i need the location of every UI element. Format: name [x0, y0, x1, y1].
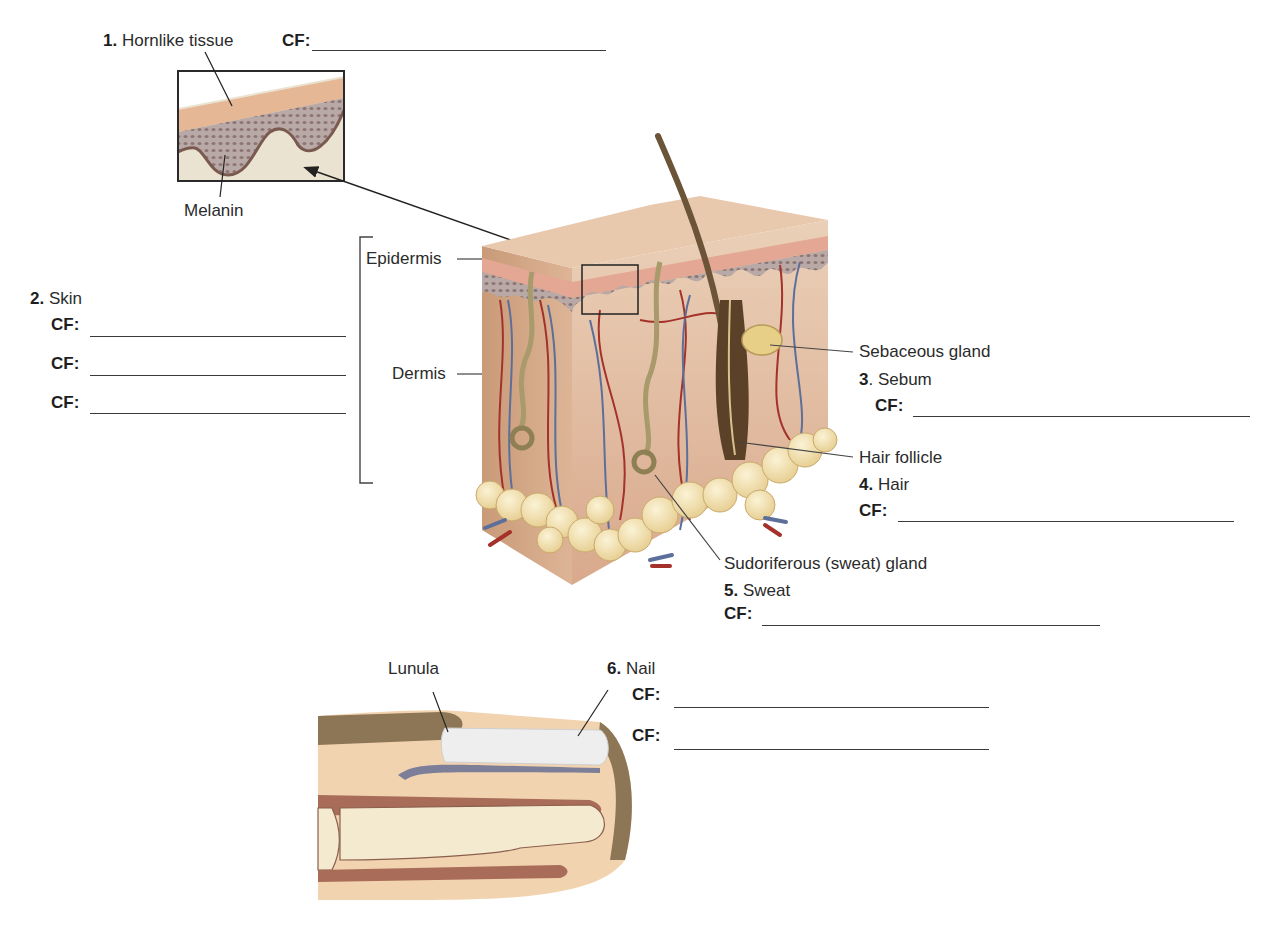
item-3-label: 3. Sebum	[859, 370, 932, 390]
item-2-cf-label-3: CF:	[51, 393, 79, 413]
item-5-label: 5. Sweat	[724, 581, 790, 601]
skin-block-illustration	[476, 136, 837, 585]
item-2-term: Skin	[49, 289, 82, 308]
item-5-cf-blank-1[interactable]	[762, 625, 1100, 626]
item-6-cf-blank-1[interactable]	[674, 707, 989, 708]
hair-follicle-label: Hair follicle	[859, 448, 942, 468]
item-6-cf-label-2: CF:	[632, 726, 660, 746]
melanin-label: Melanin	[184, 201, 244, 221]
item-2-cf-blank-1[interactable]	[90, 336, 346, 337]
item-3-cf-blank-1[interactable]	[913, 416, 1250, 417]
item-2-number: 2.	[30, 289, 44, 308]
item-2-cf-blank-2[interactable]	[90, 375, 346, 376]
sudoriferous-gland-label: Sudoriferous (sweat) gland	[724, 554, 927, 574]
lunula-label: Lunula	[388, 659, 439, 679]
item-6-cf-blank-2[interactable]	[674, 749, 989, 750]
item-1-number: 1.	[103, 31, 117, 50]
item-1-cf-blank-1[interactable]	[312, 50, 606, 51]
item-1-cf-label: CF:	[282, 31, 310, 51]
item-2-label: 2. Skin	[30, 289, 82, 309]
item-4-number: 4.	[859, 475, 873, 494]
item-5-number: 5.	[724, 581, 738, 600]
item-6-label: 6. Nail	[607, 659, 655, 679]
item-5-cf-label: CF:	[724, 604, 752, 624]
item-1-label: 1. Hornlike tissue	[103, 31, 233, 51]
dermis-label: Dermis	[392, 364, 446, 384]
epidermis-label: Epidermis	[366, 249, 442, 269]
item-4-label: 4. Hair	[859, 475, 909, 495]
item-4-cf-blank-1[interactable]	[898, 521, 1234, 522]
item-6-term: Nail	[626, 659, 655, 678]
item-2-cf-blank-3[interactable]	[90, 413, 346, 414]
item-6-cf-label-1: CF:	[632, 685, 660, 705]
item-3-term: . Sebum	[868, 370, 931, 389]
item-3-cf-label: CF:	[875, 396, 903, 416]
item-1-term: Hornlike tissue	[122, 31, 234, 50]
item-2-cf-label-2: CF:	[51, 354, 79, 374]
epidermis-inset	[178, 71, 344, 181]
item-4-term: Hair	[878, 475, 909, 494]
sebaceous-gland-label: Sebaceous gland	[859, 342, 990, 362]
item-2-cf-label-1: CF:	[51, 315, 79, 335]
item-5-term: Sweat	[743, 581, 790, 600]
item-6-number: 6.	[607, 659, 621, 678]
item-4-cf-label: CF:	[859, 501, 887, 521]
skin-diagram-artwork	[0, 0, 1272, 929]
fingertip-illustration	[318, 710, 632, 900]
